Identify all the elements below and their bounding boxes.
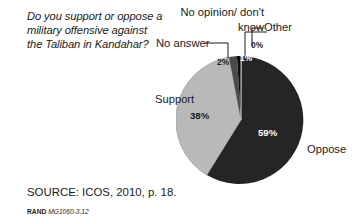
slice-value-no-answer: 2% — [217, 57, 229, 67]
slice-value-no-opinion: 0% — [251, 40, 263, 50]
rand-figure-id: RAND MG1060-3.12 — [27, 208, 89, 215]
rand-brand: RAND — [27, 208, 46, 215]
category-label-no-opinion: No opinion/ don't know — [178, 5, 264, 34]
category-label-other: Other — [264, 21, 292, 33]
rand-number: MG1060-3.12 — [48, 208, 88, 215]
category-label-no-answer: No answer — [156, 37, 209, 49]
survey-question-text: Do you support or oppose a military offe… — [27, 9, 163, 52]
category-label-oppose: Oppose — [307, 143, 346, 155]
slice-value-other: 1% — [240, 53, 252, 63]
slice-value-support: 38% — [190, 110, 209, 121]
category-label-support: Support — [155, 93, 194, 105]
figure-pie-kandahar-offensive: Do you support or oppose a military offe… — [0, 0, 364, 224]
source-note: SOURCE: ICOS, 2010, p. 18. — [27, 186, 176, 198]
slice-value-oppose: 59% — [258, 127, 277, 138]
